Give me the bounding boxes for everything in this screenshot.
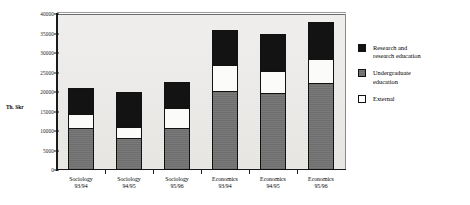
bar-segment[interactable] (165, 108, 189, 129)
x-axis-label: Sociology93/94 (57, 176, 105, 191)
bar-slot (153, 14, 201, 170)
bar-segment[interactable] (117, 93, 141, 127)
y-tick-label: 35000 (40, 31, 54, 37)
bar-segment[interactable] (213, 92, 237, 169)
legend-label: Research and research education (373, 44, 421, 60)
x-tick-mark (105, 170, 106, 174)
plot-right-border (345, 14, 346, 170)
chart-legend: Research and research educationUndergrad… (358, 44, 470, 112)
bar-slot (249, 14, 297, 170)
x-axis-label-line: 93/94 (201, 183, 249, 190)
x-axis-label-line: 93/94 (57, 183, 105, 190)
bar-segment[interactable] (165, 83, 189, 108)
y-tick-label: 25000 (40, 70, 54, 76)
bar-segment[interactable] (261, 71, 285, 94)
legend-swatch-icon (358, 44, 366, 52)
bar-slot (297, 14, 345, 170)
bar-segment[interactable] (117, 139, 141, 169)
x-axis-label-line: Economics (297, 176, 345, 183)
bar-segment[interactable] (117, 127, 141, 138)
x-tick-mark (297, 170, 298, 174)
y-tick-label: 15000 (40, 109, 54, 115)
stacked-bar[interactable] (164, 82, 190, 170)
x-axis-label: Economics94/95 (249, 176, 297, 191)
stacked-bar[interactable] (212, 30, 238, 170)
x-axis-label-line: Economics (249, 176, 297, 183)
stacked-bar[interactable] (116, 92, 142, 170)
x-axis-label-line: Sociology (105, 176, 153, 183)
stacked-bar[interactable] (68, 88, 94, 170)
bar-segment[interactable] (69, 114, 93, 129)
bar-segment[interactable] (165, 129, 189, 169)
x-axis-label-line: Economics (201, 176, 249, 183)
bar-segment[interactable] (261, 94, 285, 169)
x-axis-label-line: 94/95 (249, 183, 297, 190)
bar-segment[interactable] (213, 31, 237, 66)
x-axis-label: Economics95/96 (297, 176, 345, 191)
bar-segment[interactable] (309, 23, 333, 60)
legend-swatch-icon (358, 95, 366, 103)
y-tick-label: 30000 (40, 50, 54, 56)
bar-segment[interactable] (309, 84, 333, 169)
x-tick-mark (201, 170, 202, 174)
bar-group (57, 14, 345, 170)
legend-label: External (373, 95, 395, 103)
y-tick-label: 40000 (40, 11, 54, 17)
y-tick-label: 5000 (43, 148, 54, 154)
x-tick-mark (249, 170, 250, 174)
stacked-bar[interactable] (308, 22, 334, 170)
bar-segment[interactable] (69, 129, 93, 169)
legend-item[interactable]: Research and research education (358, 44, 470, 60)
x-axis-label: Economics93/94 (201, 176, 249, 191)
bar-segment[interactable] (213, 65, 237, 92)
x-axis-label-line: Sociology (153, 176, 201, 183)
stacked-bar-chart: 4000035000300002500020000150001000050000… (0, 0, 470, 205)
x-axis-label: Sociology94/95 (105, 176, 153, 191)
x-axis-label-line: 95/96 (297, 183, 345, 190)
y-tick-label: 10000 (40, 128, 54, 134)
bar-slot (105, 14, 153, 170)
bar-segment[interactable] (309, 59, 333, 84)
x-axis-label-line: 94/95 (105, 183, 153, 190)
bar-segment[interactable] (69, 89, 93, 114)
plot-top-rule (57, 12, 346, 13)
bar-segment[interactable] (261, 35, 285, 72)
stacked-bar[interactable] (260, 34, 286, 171)
bar-slot (57, 14, 105, 170)
legend-item[interactable]: External (358, 95, 470, 103)
legend-swatch-icon (358, 69, 366, 77)
y-axis-ticks: 4000035000300002500020000150001000050000 (0, 0, 54, 205)
legend-label: Undergraduate education (373, 69, 411, 85)
x-axis-label: Sociology95/96 (153, 176, 201, 191)
bar-slot (201, 14, 249, 170)
x-axis-label-line: Sociology (57, 176, 105, 183)
y-tick-label: 20000 (40, 89, 54, 95)
y-axis-unit-label: Th. Skr (6, 104, 24, 110)
x-tick-mark (153, 170, 154, 174)
legend-item[interactable]: Undergraduate education (358, 69, 470, 85)
x-axis-label-line: 95/96 (153, 183, 201, 190)
